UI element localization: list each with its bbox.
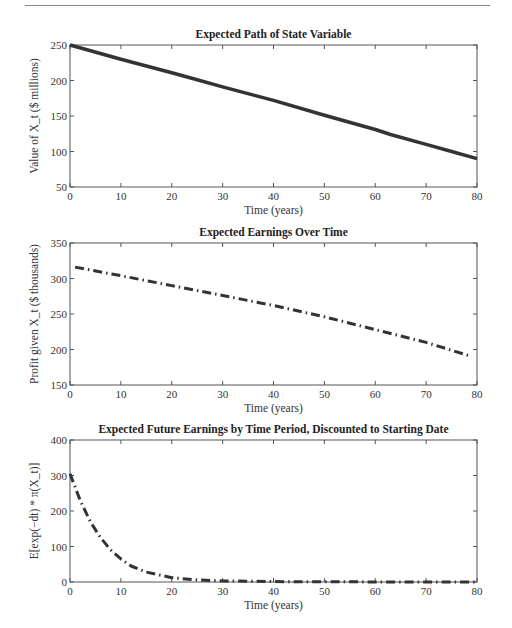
x-tick-label: 40 [268, 388, 280, 400]
chart-1: Expected Path of State Variable010203040… [28, 28, 483, 217]
y-tick-label: 300 [51, 273, 68, 285]
chart-title: Expected Future Earnings by Time Period,… [98, 423, 448, 436]
x-axis-label: Time (years) [244, 599, 303, 612]
y-tick-label: 200 [51, 505, 68, 517]
y-tick-label: 250 [51, 39, 68, 51]
x-tick-label: 20 [166, 190, 178, 202]
x-tick-label: 20 [166, 388, 178, 400]
y-tick-label: 0 [62, 576, 68, 588]
x-tick-label: 50 [319, 585, 331, 597]
x-tick-label: 80 [472, 585, 484, 597]
x-tick-label: 10 [115, 190, 127, 202]
x-tick-label: 60 [370, 190, 382, 202]
x-tick-label: 20 [166, 585, 178, 597]
x-tick-label: 10 [115, 388, 127, 400]
data-series-line [75, 267, 472, 357]
x-tick-label: 70 [421, 190, 433, 202]
y-axis-label: Value of X_t ($ millions) [28, 58, 41, 174]
x-tick-label: 60 [370, 585, 382, 597]
plot-frame [70, 440, 477, 582]
y-tick-label: 200 [51, 344, 68, 356]
y-tick-label: 100 [51, 541, 68, 553]
chart-title: Expected Earnings Over Time [199, 226, 348, 239]
y-tick-label: 100 [51, 146, 68, 158]
y-tick-label: 300 [51, 470, 68, 482]
y-tick-label: 150 [51, 379, 68, 391]
x-tick-label: 40 [268, 585, 280, 597]
x-tick-label: 80 [472, 190, 484, 202]
x-tick-label: 60 [370, 388, 382, 400]
x-tick-label: 30 [217, 190, 229, 202]
x-tick-label: 70 [421, 388, 433, 400]
y-axis-label: Profit given X_t ($ thousands) [28, 244, 41, 384]
x-tick-label: 10 [115, 585, 127, 597]
data-series-line [70, 45, 477, 159]
x-tick-label: 0 [67, 190, 73, 202]
y-tick-label: 400 [51, 434, 68, 446]
x-tick-label: 40 [268, 190, 280, 202]
x-tick-label: 0 [67, 388, 73, 400]
x-tick-label: 70 [421, 585, 433, 597]
chart-3: Expected Future Earnings by Time Period,… [28, 423, 483, 612]
data-series-line [70, 474, 477, 582]
y-tick-label: 50 [56, 181, 68, 193]
x-axis-label: Time (years) [244, 402, 303, 415]
y-tick-label: 200 [51, 75, 68, 87]
y-tick-label: 350 [51, 237, 68, 249]
chart-title: Expected Path of State Variable [196, 28, 352, 41]
chart-2: Expected Earnings Over Time0102030405060… [28, 226, 483, 415]
x-tick-label: 30 [217, 388, 229, 400]
y-tick-label: 150 [51, 110, 68, 122]
x-tick-label: 30 [217, 585, 229, 597]
x-tick-label: 50 [319, 190, 331, 202]
plot-frame [70, 243, 477, 385]
x-tick-label: 80 [472, 388, 484, 400]
x-tick-label: 50 [319, 388, 331, 400]
x-axis-label: Time (years) [244, 204, 303, 217]
y-tick-label: 250 [51, 308, 68, 320]
figure: Expected Path of State Variable010203040… [0, 0, 512, 628]
x-tick-label: 0 [67, 585, 73, 597]
y-axis-label: E[exp(−dt) * π(X_t)] [28, 463, 41, 560]
plot-frame [70, 45, 477, 187]
